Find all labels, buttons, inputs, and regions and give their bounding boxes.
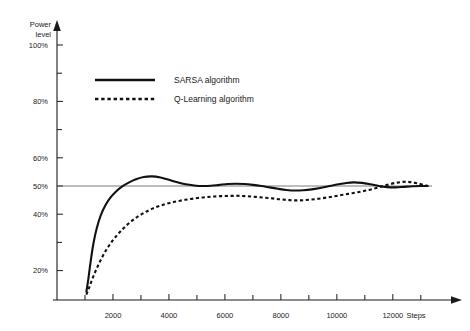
x-tick-group: 20004000600080001000012000 bbox=[105, 294, 404, 320]
y-tick-label-80: 80% bbox=[33, 97, 48, 106]
x-tick-label-4000: 4000 bbox=[161, 311, 178, 320]
series-line-q-learning bbox=[86, 182, 427, 295]
legend-label-sarsa: SARSA algorithm bbox=[174, 75, 240, 85]
y-axis-arrow-icon bbox=[53, 20, 61, 31]
legend: SARSA algorithm Q-Learning algorithm bbox=[95, 75, 254, 104]
y-tick-label-50: 50% bbox=[33, 182, 48, 191]
y-tick-label-100: 100% bbox=[29, 41, 49, 50]
chart-container: 20%40%50%60%80%100% 20004000600080001000… bbox=[0, 0, 470, 331]
x-axis-group bbox=[53, 296, 462, 304]
y-tick-label-60: 60% bbox=[33, 154, 48, 163]
x-tick-label-6000: 6000 bbox=[217, 311, 234, 320]
y-axis-title-line1: Power bbox=[30, 20, 52, 29]
legend-label-q-learning: Q-Learning algorithm bbox=[174, 94, 254, 104]
y-tick-group: 20%40%50%60%80%100% bbox=[29, 41, 63, 276]
line-chart: 20%40%50%60%80%100% 20004000600080001000… bbox=[0, 0, 470, 331]
x-axis-arrow-icon bbox=[451, 296, 462, 304]
x-tick-label-10000: 10000 bbox=[326, 311, 347, 320]
x-axis-title: Steps bbox=[406, 311, 425, 320]
series-line-sarsa bbox=[86, 176, 427, 291]
y-axis-title-line2: level bbox=[36, 30, 52, 39]
y-tick-label-20: 20% bbox=[33, 266, 48, 275]
x-tick-label-8000: 8000 bbox=[273, 311, 290, 320]
x-minor-tick-group bbox=[85, 295, 421, 300]
y-axis-group bbox=[53, 20, 61, 300]
y-tick-label-40: 40% bbox=[33, 210, 48, 219]
x-tick-label-2000: 2000 bbox=[105, 311, 122, 320]
x-tick-label-12000: 12000 bbox=[382, 311, 403, 320]
